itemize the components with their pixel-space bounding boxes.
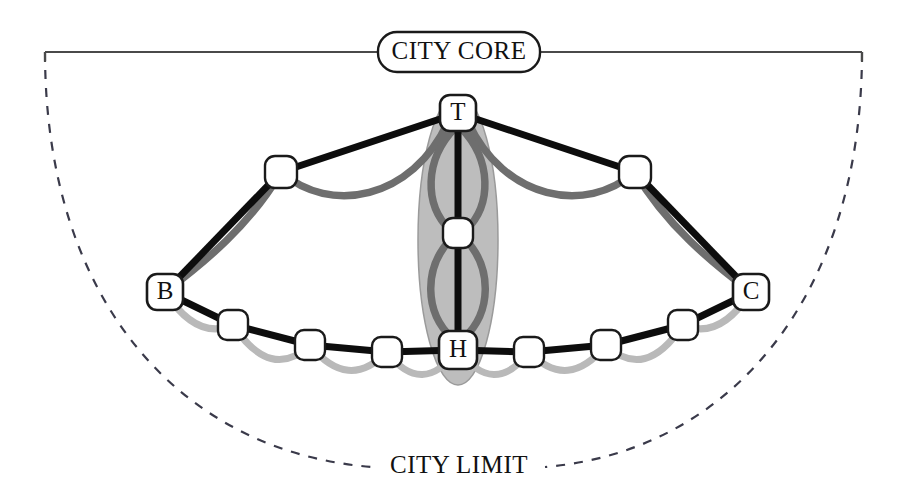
node-B-label: B — [157, 277, 174, 304]
city-core-label: CITY CORE — [392, 37, 527, 64]
city-core-label-group: CITY CORE — [378, 32, 540, 72]
node-C[interactable]: C — [733, 274, 769, 310]
node-H[interactable]: H — [439, 331, 477, 369]
node-L2[interactable] — [295, 330, 325, 360]
city-limit-label: CITY LIMIT — [390, 451, 528, 478]
node-L1[interactable] — [218, 310, 248, 340]
node-C-label: C — [743, 277, 760, 304]
diagram-canvas: T H B C CITY CORE CITY LIMIT — [0, 0, 905, 503]
node-B[interactable]: B — [147, 274, 183, 310]
node-R3[interactable] — [514, 337, 544, 367]
node-UR[interactable] — [619, 156, 651, 188]
node-T[interactable]: T — [440, 95, 476, 131]
city-limit-arc-right — [545, 52, 862, 467]
primary-link-b-ul — [165, 172, 281, 292]
node-UL[interactable] — [265, 156, 297, 188]
node-T-label: T — [450, 98, 465, 125]
node-M[interactable] — [443, 218, 473, 248]
node-R2[interactable] — [591, 330, 621, 360]
city-limit-label-group: CITY LIMIT — [374, 450, 544, 482]
node-R1[interactable] — [668, 310, 698, 340]
network-topology-diagram: T H B C CITY CORE CITY LIMIT — [0, 0, 905, 503]
primary-link-c-ur — [635, 172, 751, 292]
node-H-label: H — [449, 335, 467, 362]
node-L3[interactable] — [372, 337, 402, 367]
